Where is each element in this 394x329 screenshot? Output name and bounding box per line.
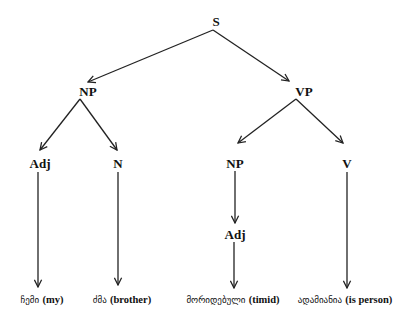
node-n: N — [113, 157, 122, 170]
leaf-timid: მორიდებული (timid) — [186, 295, 279, 306]
tree-edges — [0, 0, 394, 329]
leaf-brother: ძმა (brother) — [93, 295, 151, 306]
edge-vp-np — [238, 99, 296, 143]
leaf-georgian: ჩემი — [21, 295, 40, 305]
node-vp: VP — [295, 85, 312, 98]
node-v: V — [342, 157, 351, 170]
edge-np-n — [80, 99, 117, 150]
edge-np-adj — [40, 99, 80, 150]
node-adj-1: Adj — [30, 157, 51, 170]
leaf-georgian: მორიდებული — [186, 295, 245, 305]
node-np: NP — [79, 85, 96, 98]
leaf-georgian: ძმა — [93, 295, 107, 305]
edge-s-np — [88, 30, 213, 82]
leaf-is-person: ადამიანია (is person) — [298, 295, 393, 306]
leaf-georgian: ადამიანია — [298, 295, 342, 305]
leaf-gloss: (timid) — [249, 294, 280, 305]
node-s: S — [212, 15, 219, 28]
edge-vp-v — [296, 99, 343, 143]
leaf-gloss: (my) — [42, 294, 63, 305]
node-adj-2: Adj — [225, 228, 246, 241]
leaf-gloss: (is person) — [345, 294, 392, 305]
edge-s-vp — [213, 30, 289, 81]
leaf-my: ჩემი (my) — [21, 295, 64, 306]
node-np-2: NP — [226, 157, 243, 170]
leaf-gloss: (brother) — [110, 294, 151, 305]
